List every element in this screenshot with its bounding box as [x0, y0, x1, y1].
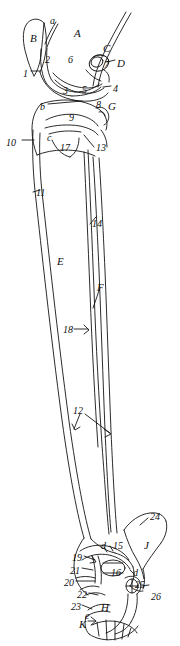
label-number-24: 24 [150, 512, 160, 522]
interosseous-line [84, 150, 109, 534]
label-letter-d1: d [101, 541, 106, 551]
leader-b [48, 101, 82, 104]
label-number-8: 8 [96, 100, 101, 110]
label-number-16: 16 [111, 568, 121, 578]
label-number-25: 25 [135, 580, 145, 590]
label-letter-H: H [101, 602, 109, 613]
label-letter-b: b [40, 102, 45, 112]
label-number-15: 15 [113, 541, 123, 551]
label-number-11: 11 [36, 188, 45, 198]
label-number-22: 22 [77, 590, 87, 600]
digits-hoof [85, 604, 138, 640]
label-letter-A: A [74, 28, 81, 39]
label-letter-E: E [57, 256, 64, 267]
label-number-3: 3 [63, 86, 68, 96]
label-number-17: 17 [60, 143, 70, 153]
label-letter-c: c [47, 133, 51, 143]
label-letter-F: F [97, 282, 104, 293]
femur-proximal-outline [23, 19, 58, 76]
label-number-6: 6 [68, 55, 73, 65]
label-number-10: 10 [6, 138, 16, 148]
label-number-23: 23 [71, 602, 81, 612]
label-number-1: 1 [23, 69, 28, 79]
label-number-13: 13 [96, 143, 106, 153]
skeleton-line-drawing [0, 0, 180, 646]
label-letter-G: G [108, 101, 116, 112]
label-letter-D: D [117, 58, 125, 69]
label-number-18: 18 [63, 325, 73, 335]
label-number-2: 2 [45, 55, 50, 65]
label-number-19: 19 [72, 553, 82, 563]
label-number-5: 5 [82, 85, 87, 95]
label-number-26: 26 [151, 592, 161, 602]
label-number-4: 4 [113, 84, 118, 94]
label-letter-B: B [30, 33, 37, 44]
label-letter-e: e [85, 611, 89, 621]
label-letter-a: a [50, 16, 55, 26]
label-number-21: 21 [70, 566, 80, 576]
label-number-12: 12 [73, 406, 83, 416]
label-letter-J: J [144, 540, 149, 551]
leader-13 [84, 135, 94, 147]
label-number-7: 7 [104, 60, 109, 70]
label-number-9: 9 [69, 113, 74, 123]
label-number-20: 20 [64, 578, 74, 588]
leader-4 [103, 86, 111, 87]
femur-shaft-long [93, 12, 131, 87]
label-letter-d2: d [133, 568, 138, 578]
label-number-14: 14 [92, 219, 102, 229]
anatomical-figure: ABCDEFGHJKabcdde123456789101112131415161… [0, 0, 180, 646]
label-letter-C: C [103, 43, 110, 54]
leader-18 [74, 325, 89, 334]
